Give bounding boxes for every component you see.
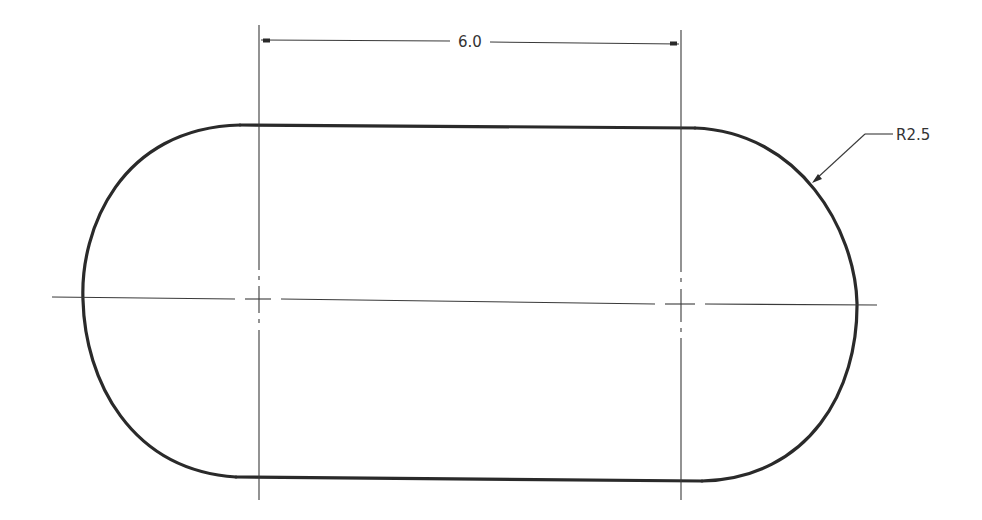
horizontal-centerline (52, 297, 877, 305)
top-edge (240, 125, 695, 128)
drawing-canvas: 6.0 R2.5 (0, 0, 982, 520)
slot-outline (83, 125, 857, 481)
arrow-left-icon (263, 39, 270, 43)
arrow-right-icon (670, 42, 677, 46)
radius-leader (812, 134, 893, 183)
dimension-label-6-0: 6.0 (458, 33, 482, 51)
radius-label: R2.5 (896, 126, 930, 144)
bottom-edge (236, 477, 702, 481)
dimension-6-0: 6.0 (261, 33, 679, 51)
left-arc (83, 125, 240, 477)
